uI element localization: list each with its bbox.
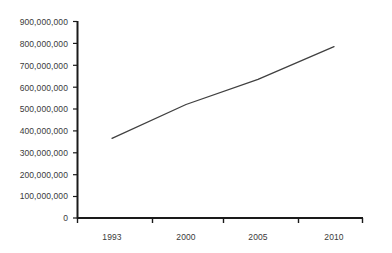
line-chart: 900,000,000 800,000,000 700,000,000 600,… <box>0 0 392 253</box>
plot-area <box>0 0 392 253</box>
y-axis-ticks <box>73 22 77 219</box>
series-line <box>112 47 334 139</box>
